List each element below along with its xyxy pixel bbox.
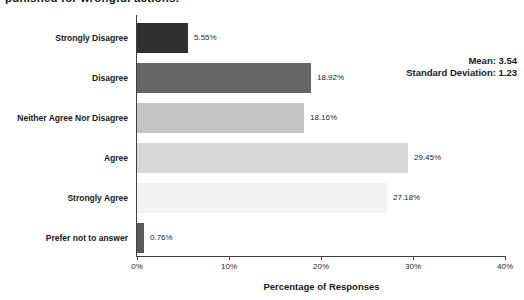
x-axis-tick: [137, 256, 138, 260]
category-label: Disagree: [0, 73, 128, 83]
x-axis-tick: [229, 256, 230, 260]
stats-annotation: Mean: 3.54 Standard Deviation: 1.23: [406, 55, 517, 79]
bar-chart: punished for wrongful actions. Strongly …: [0, 0, 524, 300]
bar-value-label: 27.18%: [393, 193, 420, 202]
category-label: Strongly Agree: [0, 193, 128, 203]
bar-value-label: 18.16%: [310, 113, 337, 122]
x-axis-title: Percentage of Responses: [137, 281, 506, 292]
bar-prefer-not-to-answer: [137, 223, 144, 253]
x-axis-tick-label: 0%: [117, 262, 157, 271]
bar-value-label: 18.92%: [317, 73, 344, 82]
x-axis-tick: [321, 256, 322, 260]
bar-strongly-agree: [137, 183, 387, 213]
category-label: Neither Agree Nor Disagree: [0, 113, 128, 123]
bar-value-label: 29.45%: [414, 153, 441, 162]
x-axis-tick-label: 30%: [393, 262, 433, 271]
mean-value: Mean: 3.54: [406, 55, 517, 67]
bar-neither-agree-nor-disagree: [137, 103, 304, 133]
std-deviation-value: Standard Deviation: 1.23: [406, 67, 517, 79]
x-axis-tick: [505, 256, 506, 260]
x-axis-tick-label: 10%: [209, 262, 249, 271]
x-axis-tick-label: 40%: [485, 262, 524, 271]
chart-title-text: punished for wrongful actions.: [5, 0, 405, 4]
bar-value-label: 0.76%: [150, 233, 173, 242]
category-label: Prefer not to answer: [0, 233, 128, 243]
chart-title-clipped: punished for wrongful actions.: [5, 0, 405, 7]
bar-agree: [137, 143, 408, 173]
x-axis-tick: [413, 256, 414, 260]
bar-disagree: [137, 63, 311, 93]
x-axis-tick-label: 20%: [301, 262, 341, 271]
bar-value-label: 5.55%: [194, 33, 217, 42]
category-label: Strongly Disagree: [0, 33, 128, 43]
bar-strongly-disagree: [137, 23, 188, 53]
category-label: Agree: [0, 153, 128, 163]
